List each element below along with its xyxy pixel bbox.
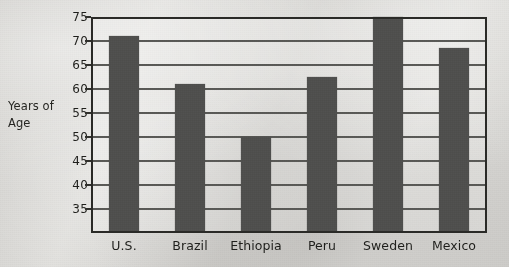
plot-frame <box>91 17 487 233</box>
chart-page: Years of Age 757065605550454035 U.S.Braz… <box>0 0 509 267</box>
x-axis-label-mexico: Mexico <box>421 238 487 253</box>
y-axis-tick-label: 75 <box>58 11 88 23</box>
x-axis-tick-labels: U.S.BrazilEthiopiaPeruSwedenMexico <box>91 238 487 262</box>
x-axis-label-peru: Peru <box>289 238 355 253</box>
y-axis-tick-label: 70 <box>58 35 88 47</box>
x-axis-label-ethiopia: Ethiopia <box>223 238 289 253</box>
y-axis-tick-label: 45 <box>58 155 88 167</box>
y-axis-tick-label: 40 <box>58 179 88 191</box>
x-axis-label-sweden: Sweden <box>355 238 421 253</box>
y-axis-tick-label: 65 <box>58 59 88 71</box>
y-axis-tick-labels: 757065605550454035 <box>58 0 88 267</box>
x-axis-label-brazil: Brazil <box>157 238 223 253</box>
y-axis-tick-label: 35 <box>58 203 88 215</box>
plot-area <box>91 17 487 233</box>
y-axis-tick-label: 55 <box>58 107 88 119</box>
x-axis-label-u-s: U.S. <box>91 238 157 253</box>
y-axis-tick-label: 60 <box>58 83 88 95</box>
y-axis-tick-label: 50 <box>58 131 88 143</box>
